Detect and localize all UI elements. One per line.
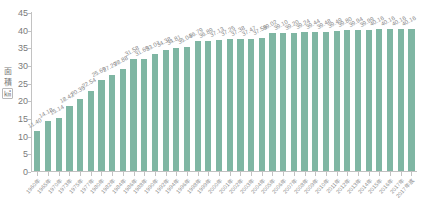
bar[interactable]: 39.20 xyxy=(291,33,297,172)
x-axis-tick-mark xyxy=(69,172,70,176)
x-axis-tick-mark xyxy=(101,172,102,176)
bar[interactable]: 14.18 xyxy=(45,121,51,171)
bar[interactable]: 39.99 xyxy=(366,30,372,171)
bar[interactable]: 39.80 xyxy=(344,30,350,171)
bar[interactable]: 34.38 xyxy=(163,50,169,171)
bar-slot: 31.69 xyxy=(139,12,150,171)
x-axis-labels: 1960年1965年1970年1973年1975年1977年1980年1982年… xyxy=(32,177,417,203)
x-axis-tick-mark xyxy=(219,172,220,176)
y-axis-tick-label: 10 xyxy=(18,132,28,142)
x-axis-tick-mark xyxy=(390,172,391,176)
bar[interactable]: 40.16 xyxy=(376,29,382,171)
bar-slot: 25.69 xyxy=(96,12,107,171)
y-axis-tick-label: 40 xyxy=(18,26,28,36)
bar[interactable]: 35.04 xyxy=(184,47,190,171)
x-axis-tick-mark xyxy=(379,172,380,176)
y-axis-tick-mark xyxy=(28,31,31,32)
x-axis-tick-mark xyxy=(315,172,316,176)
x-axis-tick-mark xyxy=(283,172,284,176)
bar[interactable]: 40.16 xyxy=(387,29,393,171)
y-axis-tick-mark xyxy=(28,137,31,138)
bar-slot: 39.44 xyxy=(310,12,321,171)
x-axis-label-slot: 2017年底 xyxy=(406,177,417,203)
y-axis-tick-mark xyxy=(28,48,31,49)
bar-slot: 40.16 xyxy=(385,12,396,171)
x-axis-tick-mark xyxy=(48,172,49,176)
y-axis-title-char-2: 積 xyxy=(4,77,12,88)
bar[interactable]: 40.16 xyxy=(408,29,414,171)
y-axis-tick-label: 30 xyxy=(18,61,28,71)
bar[interactable]: 28.88 xyxy=(120,69,126,171)
bar-slot: 39.48 xyxy=(321,12,332,171)
bar[interactable]: 39.49 xyxy=(334,31,340,171)
bar-slot: 39.99 xyxy=(363,12,374,171)
bar[interactable]: 22.54 xyxy=(88,91,94,171)
bar-slot: 14.18 xyxy=(43,12,54,171)
bar[interactable]: 15.14 xyxy=(56,118,62,171)
bar[interactable]: 37.25 xyxy=(227,39,233,171)
x-axis-tick-mark xyxy=(401,172,402,176)
bar[interactable]: 37.38 xyxy=(237,39,243,171)
x-axis-tick-mark xyxy=(294,172,295,176)
bar-slot: 34.38 xyxy=(160,12,171,171)
bar-slot: 37.56 xyxy=(256,12,267,171)
y-axis-title: 面 積 ㎢ xyxy=(1,66,14,99)
x-axis-tick-mark xyxy=(251,172,252,176)
bar[interactable]: 39.24 xyxy=(301,32,307,171)
y-axis-tick-mark xyxy=(28,13,31,14)
bar[interactable]: 39.02 xyxy=(269,33,275,171)
x-axis-tick-mark xyxy=(326,172,327,176)
y-axis-tick-mark xyxy=(28,101,31,102)
y-axis-tick-label: 25 xyxy=(18,79,28,89)
y-axis-unit: ㎢ xyxy=(2,88,13,99)
bar-slot: 39.80 xyxy=(342,12,353,171)
bar[interactable]: 36.79 xyxy=(195,41,201,171)
bar[interactable]: 37.13 xyxy=(216,40,222,171)
bar-slot: 40.16 xyxy=(395,12,406,171)
x-axis-tick-mark xyxy=(91,172,92,176)
y-axis-tick-label: 35 xyxy=(18,43,28,53)
bar-slot: 39.10 xyxy=(278,12,289,171)
x-axis-tick-mark xyxy=(272,172,273,176)
bar[interactable]: 36.89 xyxy=(205,41,211,171)
bar[interactable]: 40.16 xyxy=(398,29,404,171)
x-axis-tick-mark xyxy=(144,172,145,176)
x-axis-tick-mark xyxy=(337,172,338,176)
bar[interactable]: 34.81 xyxy=(173,48,179,171)
bar[interactable]: 39.94 xyxy=(355,30,361,171)
x-axis-tick-mark xyxy=(59,172,60,176)
bar[interactable]: 37.47 xyxy=(248,39,254,171)
bar[interactable]: 39.44 xyxy=(312,32,318,171)
y-axis-tick-mark xyxy=(28,66,31,67)
x-axis-tick-mark xyxy=(166,172,167,176)
x-axis-tick-mark xyxy=(230,172,231,176)
bar[interactable]: 27.29 xyxy=(109,75,115,171)
bar[interactable]: 39.48 xyxy=(323,32,329,171)
bar[interactable]: 39.10 xyxy=(280,33,286,171)
bar[interactable]: 18.42 xyxy=(66,106,72,171)
bar[interactable]: 37.56 xyxy=(259,38,265,171)
bar-slot: 39.02 xyxy=(267,12,278,171)
bar[interactable]: 31.58 xyxy=(130,59,136,171)
bar-chart: 面 積 ㎢ 454035302520151050 11.4014.1815.14… xyxy=(0,0,421,203)
bar-slot: 34.81 xyxy=(171,12,182,171)
bar-slot: 20.35 xyxy=(75,12,86,171)
bar[interactable]: 25.69 xyxy=(98,80,104,171)
bar-slot: 39.20 xyxy=(289,12,300,171)
bar-slot: 40.16 xyxy=(406,12,417,171)
x-axis-tick-mark xyxy=(176,172,177,176)
bar[interactable]: 11.40 xyxy=(34,131,40,171)
y-axis-title-char-1: 面 xyxy=(4,66,12,77)
bar[interactable]: 20.35 xyxy=(77,99,83,171)
x-axis-tick-mark xyxy=(134,172,135,176)
bar[interactable]: 31.69 xyxy=(141,59,147,171)
bar-slot: 39.24 xyxy=(299,12,310,171)
bar-slot: 40.16 xyxy=(374,12,385,171)
bar-slot: 31.58 xyxy=(128,12,139,171)
x-axis-tick-mark xyxy=(240,172,241,176)
x-axis-tick-mark xyxy=(347,172,348,176)
y-axis-tick-label: 15 xyxy=(18,114,28,124)
plot-area: 454035302520151050 11.4014.1815.1418.422… xyxy=(31,12,417,172)
bar[interactable]: 33.07 xyxy=(152,54,158,171)
x-axis-tick-mark xyxy=(155,172,156,176)
